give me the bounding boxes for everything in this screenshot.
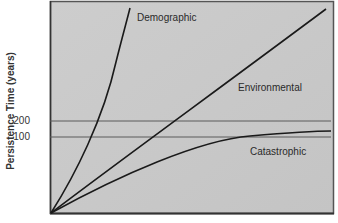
label-demographic: Demographic	[137, 12, 196, 23]
label-environmental: Environmental	[238, 82, 302, 93]
label-catastrophic: Catastrophic	[250, 146, 306, 157]
persistence-time-chart: Persistence Time (years) 200 100 Demogra…	[0, 0, 338, 223]
plot-area: Demographic Environmental Catastrophic	[0, 0, 338, 223]
